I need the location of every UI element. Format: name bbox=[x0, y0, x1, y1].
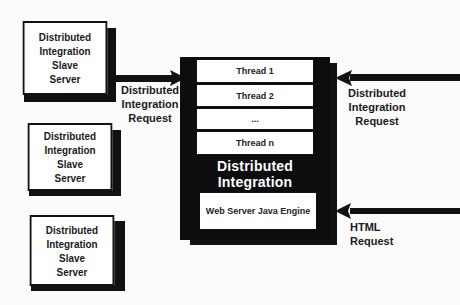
thread-2: Thread 2 bbox=[196, 84, 314, 107]
slave-server-label: Server bbox=[57, 265, 88, 279]
server-title-line1: Distributed Integration bbox=[180, 158, 330, 190]
right-request-label: Distributed Integration Request bbox=[348, 86, 406, 128]
thread-label: Thread 2 bbox=[236, 91, 274, 101]
slave-server-label: Distributed bbox=[39, 30, 91, 44]
thread-ellipsis: ... bbox=[196, 108, 314, 130]
slave-server-label: Server bbox=[50, 72, 81, 86]
html-request-label: HTML Request bbox=[350, 220, 393, 248]
slave-server-label: Distributed bbox=[46, 223, 98, 237]
slave-server-3: Distributed Integration Slave Server bbox=[30, 215, 115, 286]
slave-server-label: Slave bbox=[59, 251, 85, 265]
thread-1: Thread 1 bbox=[196, 59, 314, 83]
incoming-request-arrow bbox=[335, 70, 460, 86]
left-request-label: Distributed Integration Request bbox=[121, 83, 179, 125]
thread-label: Thread 1 bbox=[236, 66, 274, 76]
slave-server-1: Distributed Integration Slave Server bbox=[23, 21, 108, 95]
thread-n: Thread n bbox=[196, 131, 314, 155]
slave-server-label: Integration bbox=[46, 237, 97, 251]
html-request-arrow bbox=[335, 203, 460, 219]
slave-server-label: Server bbox=[55, 171, 86, 185]
web-server-java-engine: Web Server Java Engine bbox=[199, 192, 317, 230]
slave-server-2: Distributed Integration Slave Server bbox=[28, 123, 113, 191]
thread-label: ... bbox=[251, 114, 259, 124]
slave-server-label: Slave bbox=[57, 157, 83, 171]
slave-server-label: Distributed bbox=[44, 129, 96, 143]
slave-server-label: Integration bbox=[44, 143, 95, 157]
thread-label: Thread n bbox=[236, 138, 274, 148]
slave-server-label: Slave bbox=[52, 58, 78, 72]
engine-label: Web Server Java Engine bbox=[206, 206, 310, 216]
slave-server-label: Integration bbox=[39, 44, 90, 58]
